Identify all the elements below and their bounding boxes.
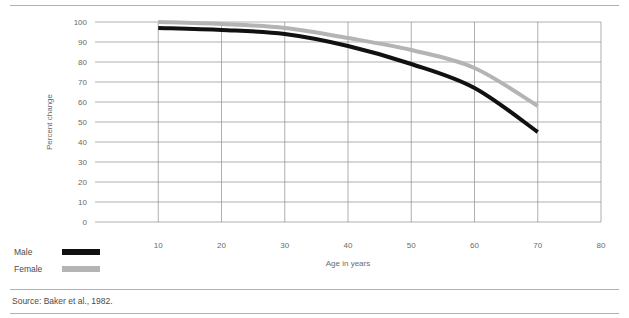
divider-above-source	[10, 289, 619, 290]
svg-text:80: 80	[597, 241, 606, 250]
legend-label-male: Male	[14, 247, 62, 257]
svg-text:30: 30	[78, 158, 87, 167]
y-axis-title: Percent change	[45, 93, 54, 150]
svg-text:0: 0	[83, 218, 88, 227]
svg-text:50: 50	[78, 118, 87, 127]
svg-text:10: 10	[78, 198, 87, 207]
divider-bottom	[10, 313, 619, 314]
svg-text:60: 60	[470, 241, 479, 250]
svg-text:80: 80	[78, 58, 87, 67]
legend-item-female: Female	[14, 260, 124, 277]
figure-container: 0102030405060708090100 1020304050607080 …	[0, 0, 629, 318]
svg-text:20: 20	[217, 241, 226, 250]
svg-text:50: 50	[407, 241, 416, 250]
y-axis-tick-labels: 0102030405060708090100	[74, 18, 88, 227]
legend-swatch-male	[62, 249, 100, 255]
legend-swatch-female	[62, 266, 100, 272]
x-axis-tick-labels: 1020304050607080	[154, 241, 606, 250]
svg-text:30: 30	[280, 241, 289, 250]
svg-text:70: 70	[78, 78, 87, 87]
chart-legend: Male Female	[14, 243, 124, 277]
svg-text:40: 40	[78, 138, 87, 147]
source-note: Source: Baker et al., 1982.	[12, 296, 113, 306]
legend-item-male: Male	[14, 243, 124, 260]
svg-text:60: 60	[78, 98, 87, 107]
svg-text:70: 70	[533, 241, 542, 250]
svg-text:20: 20	[78, 178, 87, 187]
svg-text:90: 90	[78, 38, 87, 47]
svg-text:100: 100	[74, 18, 88, 27]
x-axis-title: Age in years	[326, 259, 370, 268]
svg-text:40: 40	[344, 241, 353, 250]
svg-text:10: 10	[154, 241, 163, 250]
legend-label-female: Female	[14, 264, 62, 274]
